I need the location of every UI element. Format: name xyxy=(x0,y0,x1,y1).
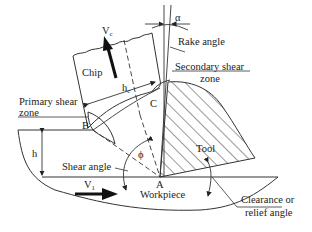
shear-angle-label: Shear angle xyxy=(62,161,111,172)
chip xyxy=(73,33,160,130)
primary-shear-zone xyxy=(88,112,115,144)
vc-label: Vc xyxy=(102,25,113,40)
tool-label: Tool xyxy=(196,143,215,154)
clearance-label-1: Clearance or xyxy=(241,194,294,205)
point-c-label: C xyxy=(150,98,157,109)
clearance-label-2: relief angle xyxy=(245,207,293,218)
secondary-shear-label-2: zone xyxy=(200,73,220,84)
point-b-label: B xyxy=(82,120,89,131)
workpiece-label: Workpiece xyxy=(140,189,185,200)
v1-arrow xyxy=(75,188,118,200)
h-label: h xyxy=(32,148,37,159)
hc-label: hc xyxy=(122,82,130,97)
primary-shear-label-1: Primary shear xyxy=(19,96,78,107)
tool xyxy=(160,82,255,177)
chip-label: Chip xyxy=(82,67,102,78)
secondary-shear-label-1: Secondary shear xyxy=(175,61,244,72)
vc-arrow xyxy=(103,36,116,78)
rake-angle-label: Rake angle xyxy=(178,36,225,47)
primary-shear-label-2: zone xyxy=(19,107,39,118)
phi-label: ϕ xyxy=(138,149,144,160)
alpha-label: α xyxy=(175,12,181,23)
v1-label: V1 xyxy=(84,179,95,194)
phi-arc xyxy=(123,140,148,190)
